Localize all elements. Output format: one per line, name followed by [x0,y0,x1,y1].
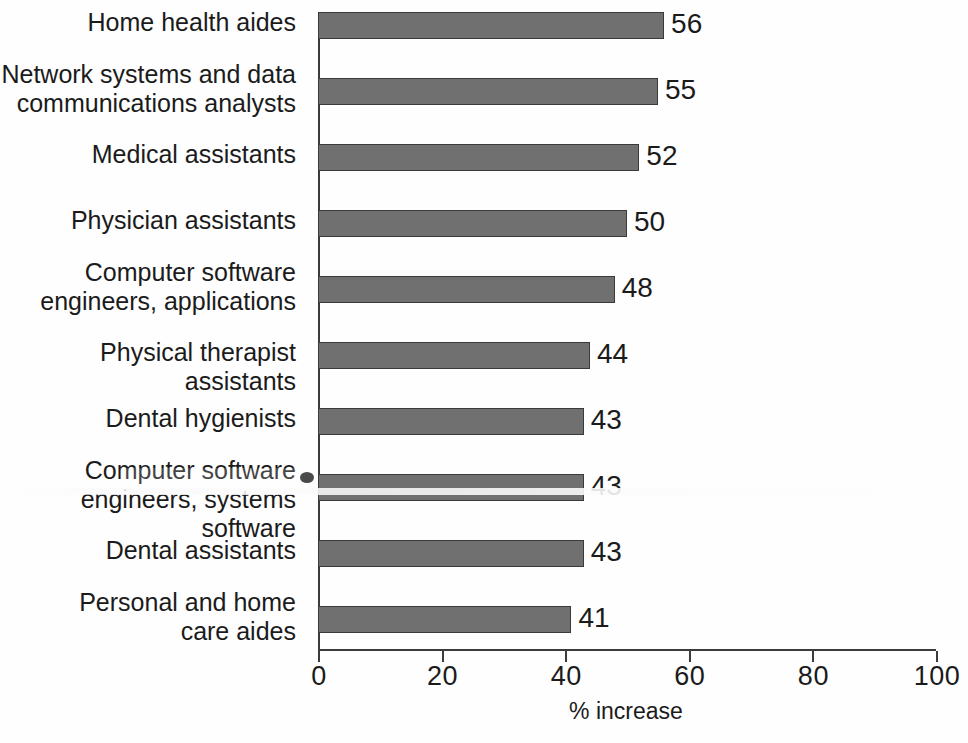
category-label: Computer software engineers, systems sof… [0,456,296,543]
category-label: Network systems and data communications … [1,60,296,118]
bar[interactable] [318,144,639,171]
bar-row: 41 [318,586,936,652]
bar-value-label: 41 [578,603,609,633]
bar-row: 44 [318,322,936,388]
bar-row: 52 [318,124,936,190]
category-label: Home health aides [88,8,296,37]
bar-row: 43 [318,388,936,454]
bar[interactable] [318,606,571,633]
category-label: Computer software engineers, application… [40,258,296,316]
bar-row: 56 [318,0,936,58]
category-label: Medical assistants [92,140,296,169]
x-axis-title: % increase [318,700,936,723]
bar-row: 50 [318,190,936,256]
bar-row: 43 [318,520,936,586]
category-label: Dental assistants [106,536,296,565]
bar-value-label: 43 [591,537,622,567]
bar[interactable] [318,540,584,567]
category-label: Personal and home care aides [79,588,296,646]
bar-value-label: 43 [591,471,622,501]
bar-value-label: 43 [591,405,622,435]
bar[interactable] [318,210,627,237]
category-label: Dental hygienists [106,404,296,433]
bar-value-label: 44 [597,339,628,369]
bar[interactable] [318,12,664,39]
bar[interactable] [318,474,584,501]
bar-value-label: 52 [646,141,677,171]
bar[interactable] [318,276,615,303]
bar-value-label: 56 [671,9,702,39]
bar-row: 48 [318,256,936,322]
bar-row: 43 [318,454,936,520]
bar-row: 55 [318,58,936,124]
bar[interactable] [318,342,590,369]
x-axis-tick-label: 80 [798,663,829,690]
bar[interactable] [318,78,658,105]
x-axis-title-text: % increase [569,698,683,724]
scan-smudge-artifact [300,472,314,483]
category-label: Physician assistants [71,206,296,235]
plot-area: 56555250484443434341 020406080100 % incr… [318,0,936,651]
x-axis-tick-label: 40 [551,663,582,690]
x-axis-tick-label: 100 [914,663,961,690]
bar-value-label: 55 [665,75,696,105]
bar[interactable] [318,408,584,435]
x-axis-tick-label: 0 [311,663,327,690]
category-label: Physical therapist assistants [0,338,296,396]
x-axis-tick-label: 20 [427,663,458,690]
x-axis-tick-label: 60 [674,663,705,690]
bar-value-label: 48 [622,273,653,303]
bar-chart: 56555250484443434341 020406080100 % incr… [0,0,968,743]
bar-value-label: 50 [634,207,665,237]
